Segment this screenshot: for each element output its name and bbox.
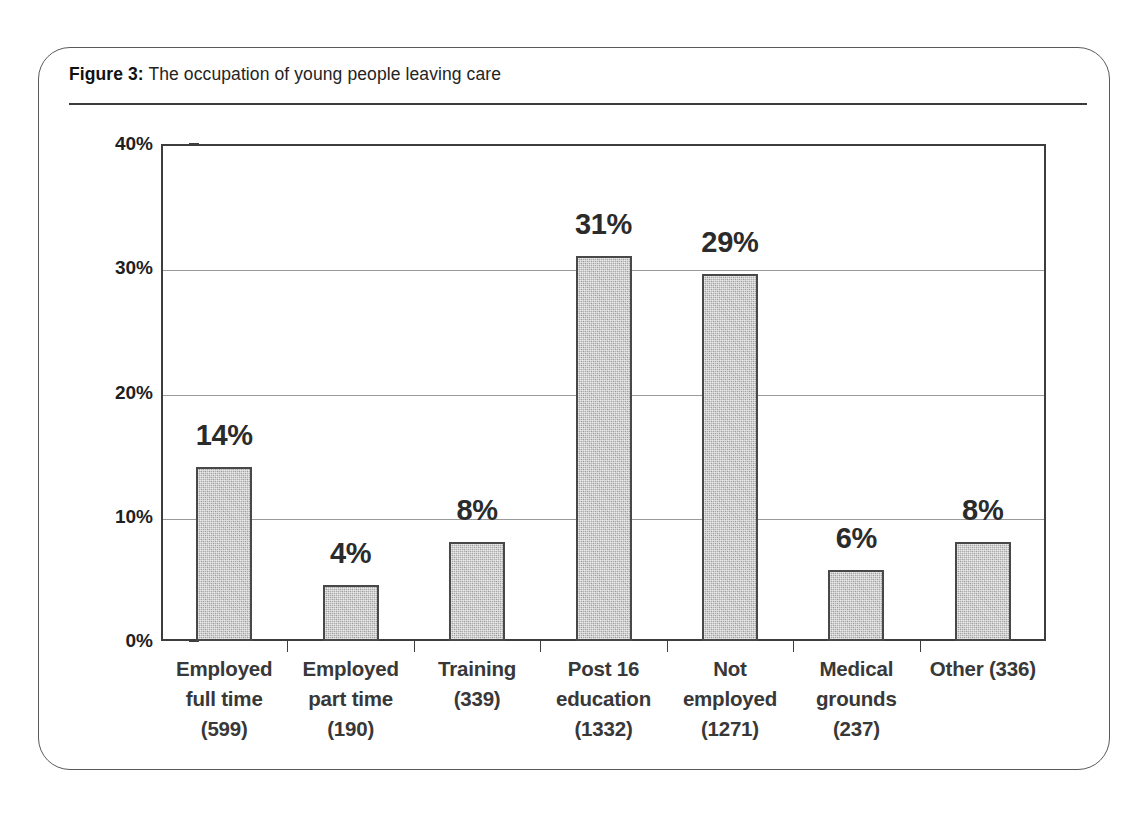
x-tick-mark [540, 641, 541, 652]
category-label-line: (190) [276, 714, 426, 744]
category-label-line: Other (336) [908, 654, 1058, 684]
y-tick-label: 30% [79, 257, 153, 279]
category-label-line: grounds [781, 684, 931, 714]
category-label-line: (237) [781, 714, 931, 744]
y-tick-label: 20% [79, 382, 153, 404]
figure-page: Figure 3: The occupation of young people… [0, 0, 1147, 813]
y-tick-label: 40% [79, 133, 153, 155]
y-tick-label: 10% [79, 506, 153, 528]
bar[interactable] [828, 570, 884, 641]
x-tick-mark [287, 641, 288, 652]
x-tick-mark [414, 641, 415, 652]
x-axis-labels: Employedfull time(599)Employedpart time(… [161, 654, 1046, 759]
figure-card: Figure 3: The occupation of young people… [38, 47, 1110, 770]
chart-plot: 40%30%20%10%0% 14%4%8%31%29%6%8% Employe… [39, 48, 1111, 771]
y-tick-label: 0% [79, 630, 153, 652]
y-axis: 40%30%20%10%0% [75, 144, 153, 641]
bar[interactable] [702, 274, 758, 641]
bar[interactable] [323, 585, 379, 641]
x-tick-mark [667, 641, 668, 652]
category-label: Other (336) [908, 654, 1058, 684]
x-tick-mark [793, 641, 794, 652]
x-axis-ticks [161, 641, 1046, 653]
bar[interactable] [196, 467, 252, 641]
x-tick-mark [920, 641, 921, 652]
bar[interactable] [576, 256, 632, 641]
bar[interactable] [955, 542, 1011, 641]
bar[interactable] [449, 542, 505, 641]
